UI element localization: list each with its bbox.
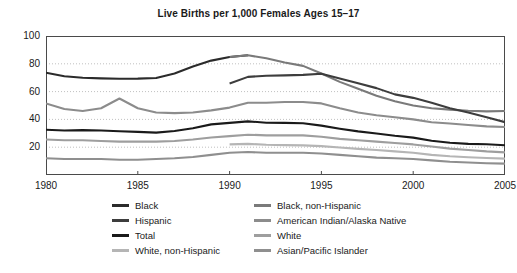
x-tick-label: 1985 [127,180,149,191]
legend-item-label: Asian/Pacific Islander [277,245,368,256]
plot-area [46,36,505,175]
x-tick-label: 1995 [310,180,332,191]
x-tick-label: 1990 [218,180,240,191]
legend-swatch-icon [254,219,271,222]
y-tick-label: 60 [2,87,40,97]
x-tick-label: 2005 [494,180,516,191]
legend-swatch-icon [112,204,129,207]
series-line [46,152,505,164]
legend-swatch-icon [254,249,271,252]
y-tick-label: 20 [2,142,40,152]
legend-item-label: Total [135,230,155,241]
legend-item-label: American Indian/Alaska Native [277,215,406,226]
legend-item[interactable]: American Indian/Alaska Native [254,214,406,227]
x-tick-label: 2000 [402,180,424,191]
legend-swatch-icon [112,249,129,252]
x-axis-tick-labels: 198019851990199520002005 [0,180,517,194]
y-tick-label: 80 [2,59,40,69]
legend-item-label: Black [135,200,158,211]
legend-item-label: White, non-Hispanic [135,245,220,256]
legend-item-label: Black, non-Hispanic [277,200,361,211]
legend-column: Black, non-HispanicAmerican Indian/Alask… [254,199,406,257]
legend-item[interactable]: Black [112,199,236,212]
legend-swatch-icon [112,234,129,237]
y-axis-tick-labels: 20406080100 [0,36,40,175]
legend-item-label: Hispanic [135,215,171,226]
legend-item[interactable]: Hispanic [112,214,236,227]
chart-legend: BlackHispanicTotalWhite, non-HispanicBla… [112,199,442,257]
legend-item[interactable]: Black, non-Hispanic [254,199,406,212]
legend-column: BlackHispanicTotalWhite, non-Hispanic [112,199,236,257]
legend-swatch-icon [112,219,129,222]
legend-swatch-icon [254,234,271,237]
y-tick-label: 100 [2,31,40,41]
series-line [46,135,505,153]
y-tick-label: 40 [2,114,40,124]
series-line [46,55,248,78]
chart-figure: Live Births per 1,000 Females Ages 15–17… [0,0,517,273]
series-line [230,74,505,122]
legend-item-label: White [277,230,301,241]
legend-item[interactable]: Total [112,229,236,242]
legend-item[interactable]: Asian/Pacific Islander [254,244,406,257]
chart-plot-svg [46,36,505,175]
chart-title: Live Births per 1,000 Females Ages 15–17 [0,8,517,19]
legend-item[interactable]: White, non-Hispanic [112,244,236,257]
legend-swatch-icon [254,204,271,207]
x-tick-label: 1980 [35,180,57,191]
legend-item[interactable]: White [254,229,406,242]
